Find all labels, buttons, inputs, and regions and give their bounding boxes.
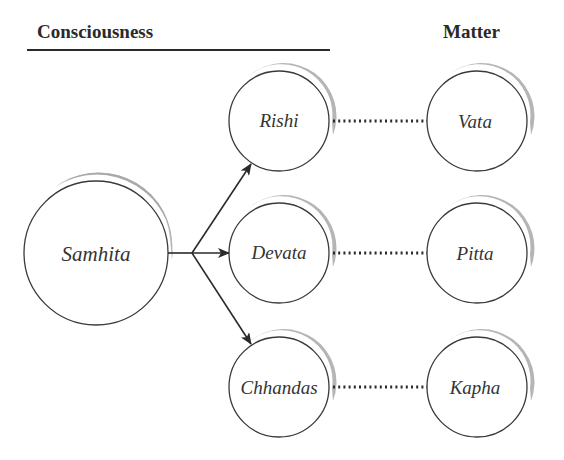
label-devata: Devata bbox=[252, 242, 307, 264]
label-chhandas: Chhandas bbox=[240, 377, 317, 399]
label-samhita: Samhita bbox=[62, 242, 131, 267]
header-matter: Matter bbox=[443, 21, 500, 43]
header-consciousness: Consciousness bbox=[37, 21, 153, 43]
label-vata: Vata bbox=[458, 111, 492, 133]
label-pitta: Pitta bbox=[457, 243, 494, 265]
label-kapha: Kapha bbox=[450, 377, 501, 399]
label-rishi: Rishi bbox=[259, 110, 298, 132]
dotted-links bbox=[333, 121, 427, 387]
